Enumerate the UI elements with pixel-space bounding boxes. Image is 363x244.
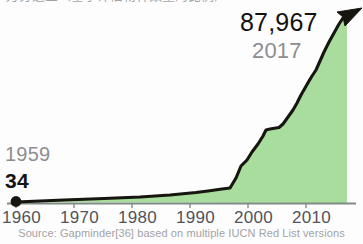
source-note: Source: Gapminder[36] based on multiple …	[0, 227, 363, 239]
xtick-label-2010: 2010	[292, 208, 331, 228]
xtick-label-1980: 1980	[118, 208, 157, 228]
start-point-marker	[11, 196, 22, 207]
xtick-label-1970: 1970	[60, 208, 99, 228]
xtick-label-2000: 2000	[234, 208, 273, 228]
xtick-label-1990: 1990	[176, 208, 215, 228]
chart-figure: 万分之三（基于评估物种数量的比例） 87,967 2017 1959 34 19…	[0, 0, 363, 244]
start-year-label: 1959	[5, 143, 50, 166]
end-year-label: 2017	[252, 38, 302, 64]
start-value-label: 34	[5, 169, 29, 193]
xtick-label-1960: 1960	[2, 208, 41, 228]
end-value-label: 87,967	[240, 8, 318, 37]
